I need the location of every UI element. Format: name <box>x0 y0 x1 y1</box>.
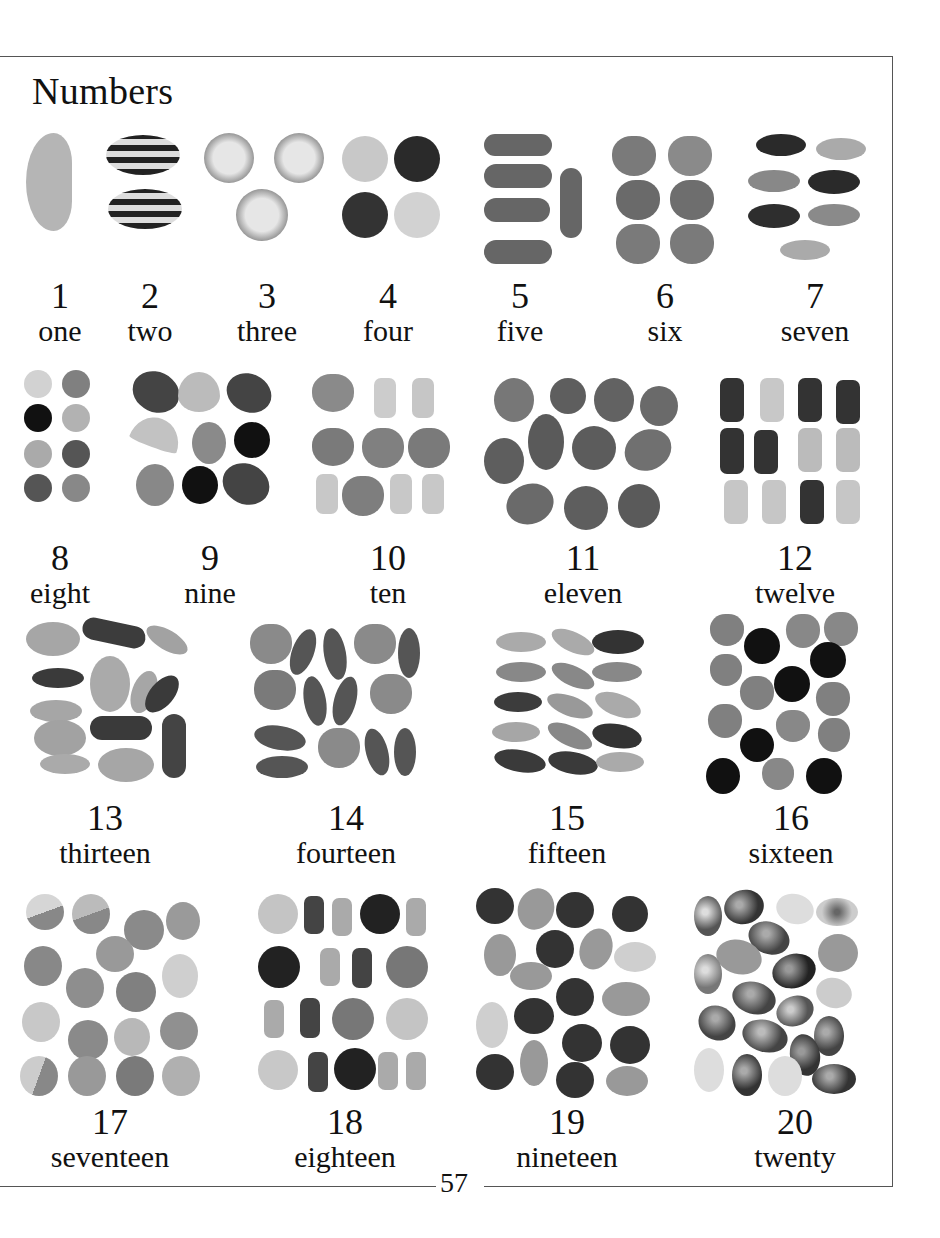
number-digit: 18 <box>280 1104 410 1140</box>
number-digit: 20 <box>730 1104 860 1140</box>
candy-illustration-16 <box>706 610 862 796</box>
number-digit: 7 <box>760 278 870 314</box>
frame-top-line <box>0 56 893 57</box>
candy-illustration-7 <box>748 134 868 264</box>
number-word: thirteen <box>40 836 170 870</box>
number-word: sixteen <box>726 836 856 870</box>
candy-illustration-18 <box>256 892 428 1092</box>
page-title: Numbers <box>32 68 173 114</box>
number-word: five <box>480 314 560 348</box>
number-digit: 5 <box>480 278 560 314</box>
number-digit: 16 <box>726 800 856 836</box>
number-digit: 1 <box>20 278 100 314</box>
candy-illustration-12 <box>718 376 860 526</box>
number-digit: 14 <box>276 800 416 836</box>
number-word: eight <box>20 576 100 610</box>
number-word: fifteen <box>512 836 622 870</box>
number-word: eleven <box>528 576 638 610</box>
number-digit: 4 <box>348 278 428 314</box>
number-digit: 3 <box>222 278 312 314</box>
number-digit: 10 <box>348 540 428 576</box>
number-word: fourteen <box>276 836 416 870</box>
number-word: nineteen <box>502 1140 632 1174</box>
number-word: four <box>348 314 428 348</box>
candy-illustration-3 <box>204 133 328 243</box>
number-digit: 19 <box>502 1104 632 1140</box>
number-word: eighteen <box>280 1140 410 1174</box>
frame-bottom-line-left <box>0 1186 436 1187</box>
number-digit: 15 <box>512 800 622 836</box>
number-digit: 17 <box>40 1104 180 1140</box>
page-number: 57 <box>440 1168 468 1198</box>
candy-illustration-8 <box>24 370 94 502</box>
number-digit: 13 <box>40 800 170 836</box>
number-word: seven <box>760 314 870 348</box>
candy-illustration-11 <box>482 374 678 528</box>
number-word: ten <box>348 576 428 610</box>
frame-bottom-line-right <box>484 1186 893 1187</box>
number-word: three <box>222 314 312 348</box>
candy-illustration-13 <box>26 620 190 776</box>
number-digit: 12 <box>740 540 850 576</box>
number-word: six <box>625 314 705 348</box>
candy-illustration-10 <box>310 372 450 522</box>
candy-illustration-9 <box>130 370 272 508</box>
number-digit: 6 <box>625 278 705 314</box>
candy-illustration-14 <box>250 624 422 776</box>
frame-right-line <box>892 56 893 1187</box>
candy-illustration-20 <box>692 888 862 1098</box>
candy-illustration-1 <box>26 133 76 233</box>
candy-illustration-2 <box>106 135 182 235</box>
candy-illustration-6 <box>612 136 722 266</box>
number-word: seventeen <box>40 1140 180 1174</box>
number-word: two <box>110 314 190 348</box>
number-word: one <box>20 314 100 348</box>
number-digit: 2 <box>110 278 190 314</box>
number-word: twenty <box>730 1140 860 1174</box>
number-word: nine <box>170 576 250 610</box>
candy-illustration-5 <box>484 134 584 270</box>
number-digit: 11 <box>528 540 638 576</box>
candy-illustration-19 <box>476 886 656 1098</box>
candy-illustration-17 <box>20 890 200 1100</box>
number-digit: 8 <box>20 540 100 576</box>
number-digit: 9 <box>170 540 250 576</box>
candy-illustration-4 <box>342 136 442 240</box>
number-word: twelve <box>740 576 850 610</box>
candy-illustration-15 <box>492 628 648 776</box>
